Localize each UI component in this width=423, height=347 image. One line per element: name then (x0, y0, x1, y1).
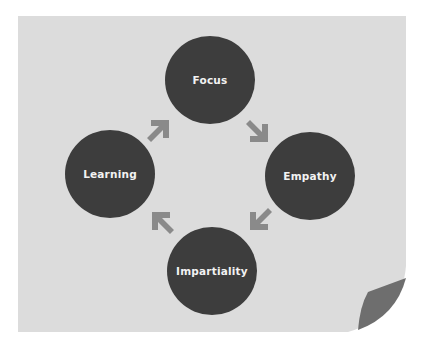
node-learning: Learning (65, 130, 155, 218)
arrow-down-right-icon (246, 120, 268, 142)
node-label: Impartiality (176, 265, 248, 277)
arrow-up-left-icon (152, 212, 174, 234)
node-empathy: Empathy (265, 132, 355, 220)
node-focus: Focus (165, 36, 255, 124)
node-label: Empathy (283, 170, 336, 182)
arrow-up-right-icon (147, 120, 169, 142)
node-label: Focus (193, 74, 228, 86)
diagram-canvas: Focus Empathy Impartiality Learning (18, 16, 406, 332)
node-impartiality: Impartiality (167, 227, 257, 315)
node-label: Learning (83, 168, 137, 180)
arrow-down-left-icon (250, 208, 272, 230)
